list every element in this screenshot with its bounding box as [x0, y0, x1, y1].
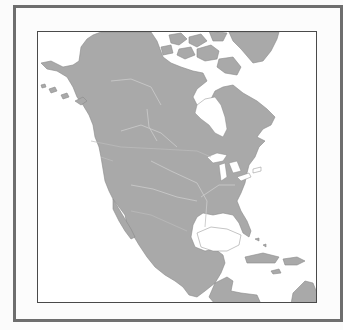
map-frame: [37, 31, 317, 303]
gulf-of-mexico: [197, 227, 241, 251]
caribbean-islands: [245, 238, 317, 303]
north-america-map: [38, 32, 317, 303]
greenland: [229, 32, 279, 63]
central-america: [209, 277, 261, 303]
